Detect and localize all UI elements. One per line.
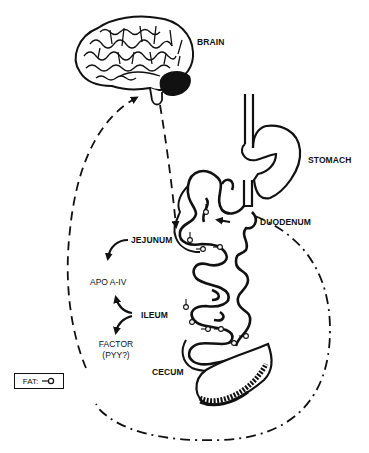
label-ileum: ILEUM: [141, 311, 168, 320]
ileum-to-apo-arrow: [116, 298, 132, 313]
brain-illustration: [76, 16, 193, 104]
intestine-illustration: [174, 171, 258, 371]
duodenum-arrow: [218, 220, 230, 222]
label-cecum: CECUM: [152, 368, 184, 377]
label-jejunum: JEJUNUM: [131, 236, 172, 245]
stomach-illustration: [242, 94, 300, 206]
cecum-illustration: [196, 344, 271, 405]
label-apo-a-iv: APO A-IV: [90, 278, 126, 287]
legend-label: FAT:: [23, 377, 38, 386]
label-factor-line2: (PYY?): [94, 351, 138, 360]
label-duodenum: DUODENUM: [260, 218, 311, 227]
label-factor-line1: FACTOR: [94, 340, 138, 349]
label-stomach: STOMACH: [308, 156, 352, 165]
legend-box: FAT:: [14, 373, 64, 389]
jejunum-to-apo-arrow: [108, 240, 128, 258]
brain-to-jejunum-dashed-arrow: [160, 105, 176, 226]
factor-to-brain-dashed-arrow: [68, 98, 136, 368]
label-brain: BRAIN: [197, 38, 224, 47]
fat-symbol-icon: [41, 377, 55, 385]
diagram-canvas: BRAIN STOMACH DUODENUM JEJUNUM APO A-IV …: [0, 0, 369, 453]
label-factor: FACTOR (PYY?): [94, 340, 138, 359]
ileum-to-factor-arrow: [116, 316, 132, 332]
